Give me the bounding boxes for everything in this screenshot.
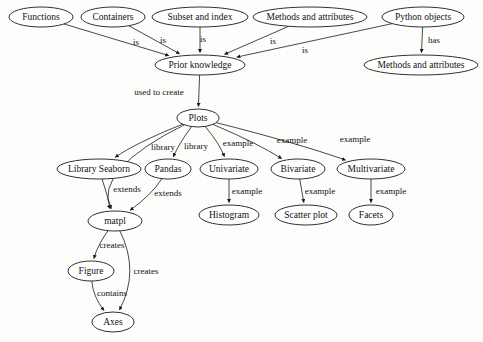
node-matpl[interactable]: matpl xyxy=(88,211,142,231)
node-label-scatter_plot: Scatter plot xyxy=(284,210,328,220)
edge-label-plots-to-multivariate: example xyxy=(340,134,371,144)
node-label-univariate: Univariate xyxy=(209,164,249,174)
node-label-figure: Figure xyxy=(79,266,104,276)
node-containers[interactable]: Containers xyxy=(81,7,145,27)
edge-label-multivariate-to-facets: example xyxy=(376,186,407,196)
node-axes[interactable]: Axes xyxy=(92,312,134,332)
node-label-histogram: Histogram xyxy=(209,210,250,220)
node-bivariate[interactable]: Bivariate xyxy=(271,159,325,179)
edge-label-figure-to-axes: contains xyxy=(97,288,127,298)
node-label-pandas: Pandas xyxy=(155,164,182,174)
edge-label-bivariate-to-scatter_plot: example xyxy=(305,186,336,196)
edge-label-plots-to-pandas: library xyxy=(184,141,208,151)
edge-label-pandas-to-matpl: extends xyxy=(154,188,182,198)
node-python_objects[interactable]: Python objects xyxy=(382,7,464,27)
node-label-matpl: matpl xyxy=(104,216,126,226)
concept-map-diagram: FunctionsContainersSubset and indexMetho… xyxy=(0,0,483,342)
node-histogram[interactable]: Histogram xyxy=(199,205,259,225)
node-prior_knowledge[interactable]: Prior knowledge xyxy=(155,55,245,75)
node-label-functions: Functions xyxy=(22,12,60,22)
edge-functions-to-prior_knowledge xyxy=(64,24,169,56)
node-scatter_plot[interactable]: Scatter plot xyxy=(275,205,337,225)
node-label-axes: Axes xyxy=(103,317,123,327)
edge-plots-to-univariate xyxy=(205,126,224,156)
node-plots[interactable]: Plots xyxy=(177,109,219,127)
node-univariate[interactable]: Univariate xyxy=(200,159,258,179)
edge-label-matpl-to-axes: creates xyxy=(134,266,159,276)
node-methods_top[interactable]: Methods and attributes xyxy=(253,7,367,27)
node-label-bivariate: Bivariate xyxy=(281,164,316,174)
edge-label-python_objects-to-prior_knowledge: is xyxy=(302,45,309,55)
node-methods_right[interactable]: Methods and attributes xyxy=(364,55,478,75)
edge-label-plots-to-univariate: example xyxy=(223,138,254,148)
edge-label-prior_knowledge-to-plots: used to create xyxy=(134,87,183,97)
edge-label-plots-to-library_seaborn: library xyxy=(151,142,175,152)
node-multivariate[interactable]: Multivariate xyxy=(337,159,405,179)
node-label-library_seaborn: Library Seaborn xyxy=(68,164,130,174)
node-label-python_objects: Python objects xyxy=(395,12,452,22)
node-library_seaborn[interactable]: Library Seaborn xyxy=(57,159,141,179)
node-label-methods_top: Methods and attributes xyxy=(266,12,353,22)
node-label-methods_right: Methods and attributes xyxy=(377,60,464,70)
concept-map-canvas: FunctionsContainersSubset and indexMetho… xyxy=(0,0,483,342)
edge-label-matpl-to-figure: creates xyxy=(100,240,125,250)
node-label-plots: Plots xyxy=(188,113,207,123)
edge-label-functions-to-prior_knowledge: is xyxy=(133,37,140,47)
edge-label-plots-to-bivariate: example xyxy=(277,135,308,145)
edge-label-containers-to-prior_knowledge: is xyxy=(160,35,167,45)
node-label-facets: Facets xyxy=(359,210,384,220)
node-functions[interactable]: Functions xyxy=(9,7,73,27)
edge-label-library_seaborn-to-matpl: extends xyxy=(113,184,141,194)
edge-python_objects-to-prior_knowledge xyxy=(237,24,392,57)
node-figure[interactable]: Figure xyxy=(68,261,114,281)
edge-label-subset-to-prior_knowledge: is xyxy=(200,34,207,44)
node-label-multivariate: Multivariate xyxy=(348,164,395,174)
edge-methods_top-to-prior_knowledge xyxy=(225,26,289,54)
node-label-prior_knowledge: Prior knowledge xyxy=(168,60,231,70)
edge-python_objects-to-methods_right xyxy=(422,27,423,53)
node-pandas[interactable]: Pandas xyxy=(145,159,191,179)
edge-label-python_objects-to-methods_right: has xyxy=(428,35,440,45)
edge-label-methods_top-to-prior_knowledge: is xyxy=(270,36,277,46)
node-subset[interactable]: Subset and index xyxy=(152,7,248,27)
edge-plots-to-library_seaborn xyxy=(115,124,182,157)
edge-prior_knowledge-to-plots xyxy=(198,75,199,107)
edge-label-univariate-to-histogram: example xyxy=(232,186,263,196)
node-label-subset: Subset and index xyxy=(168,12,233,22)
edge-bivariate-to-scatter_plot xyxy=(300,179,304,203)
edge-library_seaborn-to-matpl xyxy=(102,179,111,209)
node-facets[interactable]: Facets xyxy=(349,205,393,225)
node-label-containers: Containers xyxy=(92,12,133,22)
